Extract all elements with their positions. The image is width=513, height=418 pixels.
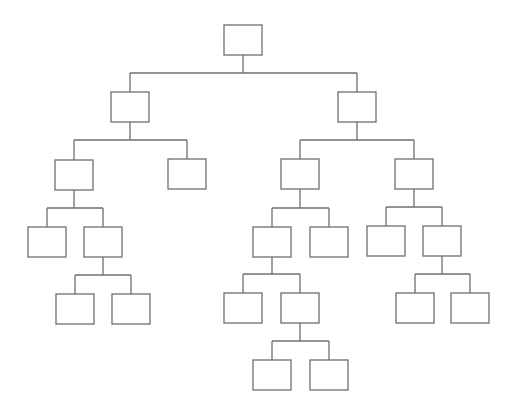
connector-LLR	[75, 257, 131, 294]
tree-node-box	[451, 293, 489, 323]
tree-node-box	[310, 227, 348, 257]
tree-node-box	[367, 226, 405, 256]
connector-LL	[47, 190, 103, 227]
connector-R	[300, 122, 414, 159]
connector-RRR	[415, 256, 470, 293]
tree-node-box	[281, 293, 319, 323]
connector-root	[130, 55, 357, 92]
tree-node-box	[112, 294, 150, 324]
tree-node-box	[423, 226, 461, 256]
tree-node-box	[253, 227, 291, 257]
tree-node-box	[396, 293, 434, 323]
tree-node-box	[281, 159, 319, 189]
connector-RL	[272, 189, 329, 227]
tree-node-box	[224, 25, 262, 55]
tree-node-box	[56, 294, 94, 324]
tree-node-box	[168, 159, 206, 189]
connector-RLL	[243, 257, 300, 293]
tree-node-box	[338, 92, 376, 122]
tree-node-box	[224, 293, 262, 323]
tree-node-box	[84, 227, 122, 257]
tree-node-box	[253, 360, 291, 390]
tree-node-box	[395, 159, 433, 189]
connector-RLLR	[272, 323, 329, 360]
tree-node-box	[310, 360, 348, 390]
tree-diagram	[0, 0, 513, 418]
tree-node-box	[28, 227, 66, 257]
tree-node-box	[111, 92, 149, 122]
connector-L	[74, 122, 187, 160]
connector-RR	[386, 189, 442, 226]
tree-node-box	[55, 160, 93, 190]
